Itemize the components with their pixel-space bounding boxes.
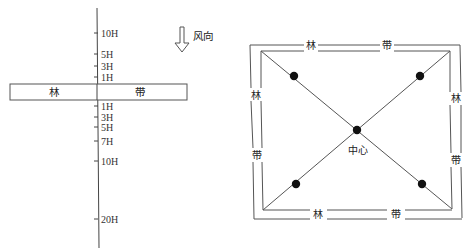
right-label-lin: 林	[451, 92, 461, 104]
bottom-label-lin: 林	[313, 208, 323, 220]
sample-point-bottom-left	[292, 180, 300, 188]
sample-point-top-left	[290, 72, 298, 80]
right-diagram: 林 带 林 带 林 带 林 带 中心	[250, 39, 462, 220]
downwind-tick-label: 7H	[101, 136, 113, 147]
left-diagram: 林 带 10H5H3H1H 1H3H5H7H10H20H 风向	[10, 8, 213, 248]
sample-point-top-right	[416, 72, 424, 80]
diagram-canvas: 林 带 10H5H3H1H 1H3H5H7H10H20H 风向	[0, 0, 467, 250]
belt-label-right: 带	[135, 86, 145, 98]
bottom-label-dai: 带	[391, 209, 401, 220]
forest-belt	[10, 84, 187, 100]
upwind-tick-label: 5H	[101, 49, 113, 60]
center-label: 中心	[348, 144, 368, 156]
left-label-lin: 林	[251, 89, 261, 101]
belt-label-left: 林	[49, 86, 60, 98]
top-label-lin: 林	[306, 39, 316, 51]
downwind-tick-label: 5H	[101, 122, 113, 133]
upwind-tick-label: 10H	[101, 28, 118, 39]
vertical-axis	[97, 8, 99, 248]
left-label-dai: 带	[252, 150, 262, 161]
wind-direction-arrow-icon	[175, 27, 189, 52]
sample-point-bottom-right	[418, 180, 426, 188]
upwind-tick-label: 1H	[101, 72, 113, 83]
downwind-tick-label: 10H	[101, 156, 118, 167]
downwind-tick-label: 20H	[101, 214, 118, 225]
sample-point-center	[353, 126, 361, 134]
wind-direction-label: 风向	[193, 30, 213, 42]
top-label-dai: 带	[382, 40, 392, 51]
upwind-tick-label: 3H	[101, 61, 113, 72]
downwind-tick-label: 1H	[101, 101, 113, 112]
right-label-dai: 带	[451, 155, 461, 166]
